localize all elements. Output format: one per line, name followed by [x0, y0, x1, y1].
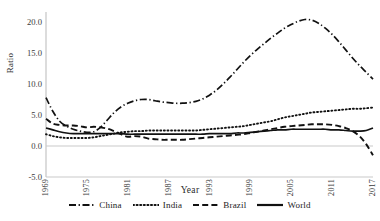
legend-swatch-india-icon	[133, 201, 159, 209]
legend-item-world[interactable]: World	[257, 200, 310, 210]
chart-container: Ratio 20.015.010.05.00.0-5.0 19691975198…	[0, 0, 380, 221]
chart-legend: ChinaIndiaBrazilWorld	[0, 200, 380, 210]
legend-swatch-brazil-icon	[193, 201, 219, 209]
legend-item-india[interactable]: India	[133, 200, 183, 210]
legend-swatch-world-icon	[257, 201, 283, 209]
legend-swatch-china-icon	[69, 201, 95, 209]
legend-label-china: China	[99, 200, 122, 210]
series-line-world	[46, 128, 373, 134]
legend-label-india: India	[163, 200, 183, 210]
series-line-china	[46, 19, 373, 132]
x-axis-title: Year	[0, 185, 380, 195]
legend-item-china[interactable]: China	[69, 200, 122, 210]
legend-label-world: World	[287, 200, 310, 210]
legend-item-brazil[interactable]: Brazil	[193, 200, 246, 210]
legend-label-brazil: Brazil	[223, 200, 246, 210]
data-series-group	[46, 19, 373, 155]
